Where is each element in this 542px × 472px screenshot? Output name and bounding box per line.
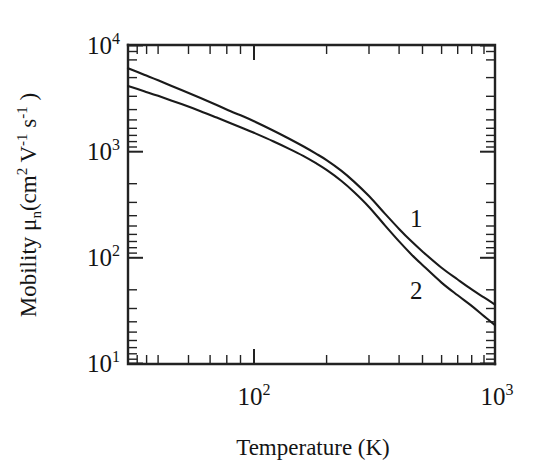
y-tick-label-10e2: 102 (87, 242, 120, 271)
curve-label-1: 1 (410, 205, 423, 232)
x-tick-labels: 102 103 (238, 381, 514, 410)
curve-label-2: 2 (410, 277, 423, 304)
y-minor-ticks-left (128, 52, 137, 360)
x-major-ticks-bottom (254, 349, 495, 364)
y-axis-title: Mobility μn(cm2 V-1 s-1 ) (14, 93, 44, 317)
y-minor-ticks-right (486, 52, 495, 360)
x-minor-ticks-bottom (137, 355, 484, 364)
y-tick-label-10e1: 101 (87, 348, 120, 377)
y-major-ticks-left (128, 46, 143, 364)
x-tick-label-10e2: 102 (238, 381, 271, 410)
y-tick-label-10e4: 104 (87, 30, 120, 59)
x-axis-title: Temperature (K) (236, 435, 390, 460)
axis-top-right (128, 45, 495, 364)
x-minor-ticks-top (137, 45, 484, 54)
x-tick-label-10e3: 103 (481, 381, 514, 410)
mobility-vs-temperature-figure: 1 2 104 103 102 101 102 103 Temperature … (0, 0, 542, 472)
data-curve-2 (128, 86, 495, 325)
y-tick-labels: 104 103 102 101 (87, 30, 120, 377)
plot-frame (128, 45, 495, 364)
x-major-ticks-top (254, 45, 495, 60)
axis-left-bottom (128, 45, 495, 364)
y-tick-label-10e3: 103 (87, 136, 120, 165)
chart-svg: 1 2 104 103 102 101 102 103 Temperature … (0, 0, 542, 472)
